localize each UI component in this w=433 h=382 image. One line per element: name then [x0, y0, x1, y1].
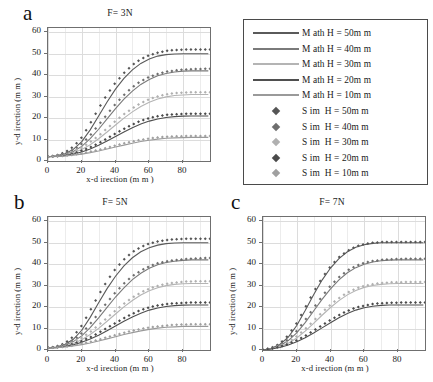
y-axis-tick-label: 30	[21, 279, 41, 289]
panel-c-title: F= 7N	[277, 197, 387, 207]
x-axis-tick-label: 0	[36, 354, 58, 364]
x-axis-tick-label: 0	[251, 354, 273, 364]
series-marker-point	[151, 286, 154, 289]
series-marker-point	[80, 325, 83, 328]
series-marker-point	[142, 308, 145, 311]
x-axis-tick	[262, 349, 263, 352]
panel-a-plot-area	[47, 27, 211, 162]
series-marker-point	[104, 303, 107, 306]
series-marker-point	[185, 280, 188, 283]
series-marker-point	[180, 91, 183, 94]
y-axis-tick-label: 40	[21, 68, 41, 78]
series-marker-point	[371, 303, 374, 306]
series-marker-point	[199, 112, 202, 115]
series-marker-point	[185, 237, 188, 240]
series-marker-point	[99, 141, 102, 144]
series-marker-point	[170, 302, 173, 305]
legend-item: M ath H = 20m m	[250, 73, 423, 87]
series-marker-point	[137, 247, 140, 250]
panel-c-x-axis-title: x-d irection (m m )	[270, 363, 400, 373]
series-marker-point	[209, 134, 212, 137]
series-marker-point	[189, 237, 192, 240]
legend-item-label: S im H = 20m m	[302, 153, 369, 163]
series-marker-point	[419, 301, 422, 304]
legend-diamond-marker-icon	[272, 122, 280, 130]
series-marker-point	[104, 138, 107, 141]
series-marker-point	[156, 284, 159, 287]
series-marker-point	[128, 299, 131, 302]
panel-c-plot-area	[262, 216, 426, 351]
legend-line-swatch	[250, 57, 302, 71]
legend-line-icon	[253, 94, 299, 96]
series-marker-point	[180, 280, 183, 283]
legend-item-label: M ath H = 50m m	[302, 28, 371, 38]
series-marker-point	[147, 326, 150, 329]
series-markers	[262, 301, 426, 351]
series-marker-point	[156, 304, 159, 307]
legend-item-label: S im H = 50m m	[302, 106, 369, 116]
figure-root: a F= 3N y-d irection (m m ) x-d irection…	[0, 0, 433, 382]
series-marker-point	[85, 129, 88, 132]
series-marker-point	[156, 240, 159, 243]
legend-item: M ath H = 30m m	[250, 57, 423, 71]
y-axis-tick-label: 60	[21, 214, 41, 224]
series-marker-point	[319, 325, 322, 328]
series-marker-point	[132, 106, 135, 109]
series-marker-point	[70, 146, 73, 149]
x-axis-tick-label: 60	[137, 165, 159, 175]
legend-item-label: M ath H = 20m m	[302, 75, 371, 85]
series-marker-point	[204, 323, 207, 326]
series-marker-point	[123, 113, 126, 116]
panel-b-plot-area	[47, 216, 211, 351]
series-marker-point	[366, 303, 369, 306]
series-marker-point	[180, 112, 183, 115]
series-marker-point	[170, 113, 173, 116]
x-axis-tick	[330, 349, 331, 352]
series-marker-point	[199, 67, 202, 70]
series-marker-point	[89, 308, 92, 311]
series-marker-point	[170, 238, 173, 241]
panel-a-x-axis-title: x-d irection (m m )	[55, 174, 185, 184]
series-marker-point	[352, 307, 355, 310]
series-marker-point	[123, 316, 126, 319]
series-marker-point	[118, 116, 121, 119]
series-marker-point	[85, 138, 88, 141]
series-marker-point	[199, 91, 202, 94]
series-marker-point	[128, 125, 131, 128]
series-marker-point	[175, 113, 178, 116]
series-marker-point	[123, 302, 126, 305]
series-marker-point	[137, 81, 140, 84]
legend-diamond-marker-icon	[272, 138, 280, 146]
series-marker-point	[343, 252, 346, 255]
series-marker-point	[204, 257, 207, 260]
y-axis-tick	[259, 328, 262, 329]
series-marker-point	[404, 301, 407, 304]
series-marker-point	[123, 282, 126, 285]
y-axis-tick	[259, 285, 262, 286]
series-marker-point	[175, 281, 178, 284]
legend-item: S im H = 20m m	[250, 151, 423, 165]
series-marker-point	[151, 53, 154, 56]
y-axis-tick	[44, 139, 47, 140]
series-marker-point	[414, 301, 417, 304]
series-marker-point	[170, 92, 173, 95]
gridline-horizontal	[48, 350, 210, 351]
series-marker-point	[147, 306, 150, 309]
y-axis-tick	[44, 96, 47, 97]
series-marker-point	[137, 328, 140, 331]
x-axis-tick	[47, 160, 48, 163]
y-axis-tick-label: 40	[21, 257, 41, 267]
series-marker-point	[142, 268, 145, 271]
x-axis-tick	[148, 160, 149, 163]
x-axis-tick-label: 0	[36, 165, 58, 175]
legend-item-label: M ath H = 30m m	[302, 59, 371, 69]
series-marker-point	[204, 301, 207, 304]
series-marker-point	[142, 56, 145, 59]
y-axis-tick-label: 0	[236, 343, 256, 353]
x-axis-tick-label: 20	[285, 354, 307, 364]
x-axis-tick	[397, 349, 398, 352]
series-marker-point	[189, 112, 192, 115]
y-axis-tick	[259, 306, 262, 307]
y-axis-tick-label: 30	[21, 90, 41, 100]
panel-b-letter: b	[14, 192, 25, 213]
